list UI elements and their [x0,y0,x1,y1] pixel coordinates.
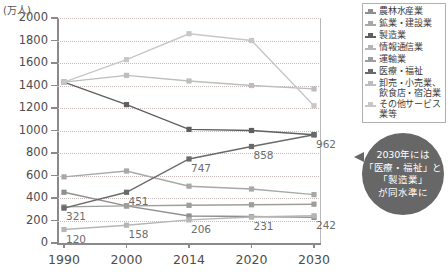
y-axis-labels: 0200400600800100012001400160018002000 [0,0,48,279]
data-point-marker [124,73,129,78]
data-point-marker [124,223,129,228]
legend-item-label: 情報通信業 [379,42,423,52]
legend-marker-icon [365,8,376,17]
legend-marker-icon [365,101,376,110]
y-tick-mark [51,175,58,177]
data-point-marker [311,192,316,197]
data-point-marker [124,190,129,195]
data-point-marker [124,168,129,173]
legend-item[interactable]: 農林水産業 [365,6,443,17]
data-point-marker [61,190,66,195]
legend-item[interactable]: 卸売・小売業、 飲食店・宿泊業 [365,78,443,98]
y-tick-label: 1400 [19,80,48,92]
y-tick-label: 1800 [19,35,48,47]
legend-marker-icon [365,44,376,53]
data-value-label: 451 [129,196,149,207]
legend-marker-icon [365,56,376,65]
data-point-marker [249,186,254,191]
callout-text-line: 「製造業」 [378,174,427,187]
x-tick-mark [313,243,315,248]
data-point-marker [249,144,254,149]
data-value-label: 747 [191,163,211,174]
y-tick-mark [51,242,58,244]
data-point-marker [249,83,254,88]
y-tick-label: 800 [26,147,48,159]
data-point-marker [186,156,191,161]
data-point-marker [124,57,129,62]
y-tick-label: 1200 [19,102,48,114]
y-tick-label: 1600 [19,57,48,69]
x-tick-mark [188,243,190,248]
x-tick-label: 2030 [298,252,330,267]
series-lines [57,18,321,243]
callout-text-line: が同水準に [378,187,427,200]
data-point-marker [311,202,316,207]
legend-item-label: 鉱業・建設業 [379,18,432,28]
x-tick-label: 2020 [236,252,268,267]
data-value-label: 242 [316,220,336,231]
data-point-marker [249,202,254,207]
y-tick-mark [51,107,58,109]
data-point-marker [186,127,191,132]
x-tick-label: 2000 [111,252,143,267]
series-line [64,171,314,195]
y-tick-label: 200 [26,215,48,227]
x-tick-mark [63,243,65,248]
data-point-marker [249,214,254,219]
data-point-marker [186,217,191,222]
data-point-marker [186,184,191,189]
data-point-marker [186,31,191,36]
legend-item-label: 製造業 [379,30,405,40]
plot-area: 120158206231242321451747858962 [57,18,321,243]
data-point-marker [61,80,66,85]
y-tick-mark [51,197,58,199]
data-point-marker [249,128,254,133]
legend-item-label: 医療・福祉 [379,66,423,76]
legend-item[interactable]: その他サービス業等 [365,99,443,119]
chart-root: (万人) 02004006008001000120014001600180020… [0,0,448,279]
legend-item[interactable]: 製造業 [365,30,443,41]
legend-item[interactable]: 運輸業 [365,54,443,65]
y-tick-label: 2000 [19,12,48,24]
data-point-marker [249,38,254,43]
legend-item-label: 卸売・小売業、 飲食店・宿泊業 [379,78,441,98]
legend-item[interactable]: 鉱業・建設業 [365,18,443,29]
y-tick-mark [51,85,58,87]
x-tick-mark [251,243,253,248]
legend-marker-icon [365,20,376,29]
y-tick-mark [51,220,58,222]
data-point-marker [61,174,66,179]
y-tick-mark [51,17,58,19]
legend-item[interactable]: 情報通信業 [365,42,443,53]
x-tick-mark [126,243,128,248]
legend-marker-icon [365,80,376,89]
data-point-marker [124,102,129,107]
data-point-marker [311,86,316,91]
x-tick-label: 1990 [48,252,80,267]
data-value-label: 120 [66,234,86,245]
callout-text-line: 「医療・福祉」と [364,162,442,175]
y-tick-label: 0 [41,237,48,249]
data-point-marker [186,203,191,208]
callout-bubble: 2030年には「医療・福祉」と「製造業」が同水準に [362,133,444,215]
callout-tail-icon [354,152,364,162]
y-tick-label: 400 [26,192,48,204]
data-point-marker [186,78,191,83]
legend-marker-icon [365,68,376,77]
legend-item-label: 運輸業 [379,54,405,64]
data-point-marker [311,103,316,108]
x-tick-label: 2014 [173,252,205,267]
data-point-marker [311,213,316,218]
data-point-marker [311,132,316,137]
data-point-marker [61,227,66,232]
data-value-label: 206 [191,224,211,235]
y-tick-mark [51,152,58,154]
series-line [64,135,314,208]
legend-item-label: その他サービス業等 [379,99,443,119]
legend-item[interactable]: 医療・福祉 [365,66,443,77]
data-value-label: 962 [316,139,336,150]
legend-item-label: 農林水産業 [379,6,423,16]
legend-marker-icon [365,32,376,41]
data-value-label: 158 [129,229,149,240]
y-tick-label: 1000 [19,125,48,137]
